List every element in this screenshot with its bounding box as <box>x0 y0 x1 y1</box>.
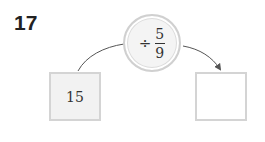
divide-sign: ÷ <box>139 34 152 52</box>
input-box: 15 <box>49 72 101 121</box>
input-value: 15 <box>66 89 84 105</box>
output-arrow <box>183 46 220 69</box>
fraction: 5 9 <box>154 27 165 60</box>
fraction-numerator: 5 <box>154 27 165 43</box>
input-connector-line <box>78 44 124 71</box>
operation-circle: ÷ 5 9 <box>123 14 181 72</box>
answer-box[interactable] <box>195 72 247 121</box>
fraction-denominator: 9 <box>155 44 164 60</box>
